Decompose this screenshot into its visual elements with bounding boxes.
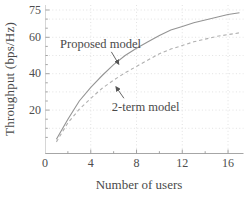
annotation-two-term-model: 2-term model (112, 100, 180, 115)
y-tick-label: 20 (0, 104, 41, 117)
annotation-proposed-model: Proposed model (60, 37, 141, 52)
x-tick-label: 4 (79, 157, 103, 170)
x-tick-label: 12 (170, 157, 194, 170)
x-tick-label: 8 (125, 157, 149, 170)
y-tick-label: 75 (0, 4, 41, 17)
x-tick-label: 0 (33, 157, 57, 170)
throughput-vs-users-chart: Throughput (bps/Hz) Number of users Prop… (0, 0, 245, 198)
y-tick-label: 60 (0, 31, 41, 44)
x-tick-label: 16 (216, 157, 240, 170)
x-axis-title: Number of users (96, 177, 183, 193)
y-tick-label: 40 (0, 67, 41, 80)
